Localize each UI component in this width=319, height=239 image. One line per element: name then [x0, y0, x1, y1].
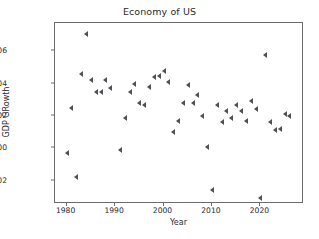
x-axis-label: Year — [54, 218, 303, 227]
scatter-point — [278, 126, 282, 132]
scatter-point — [176, 118, 180, 124]
y-tick-label: 0.00 — [0, 143, 7, 152]
scatter-point — [108, 85, 112, 91]
scatter-point — [254, 106, 258, 112]
scatter-point — [268, 119, 272, 125]
scatter-point — [263, 52, 267, 58]
y-tick-mark — [51, 82, 54, 83]
scatter-point — [89, 77, 93, 83]
scatter-point — [137, 100, 141, 106]
scatter-point — [210, 187, 214, 193]
scatter-point — [166, 79, 170, 85]
scatter-point — [123, 115, 127, 121]
scatter-point — [118, 147, 122, 153]
scatter-point — [215, 102, 219, 108]
scatter-point — [69, 105, 73, 111]
scatter-point — [103, 77, 107, 83]
scatter-point — [186, 82, 190, 88]
plot-frame — [54, 22, 303, 203]
scatter-point — [234, 102, 238, 108]
scatter-point — [132, 81, 136, 87]
scatter-plot-area — [55, 23, 302, 202]
scatter-point — [244, 118, 248, 124]
x-tick-label: 2000 — [143, 206, 183, 215]
scatter-point — [273, 127, 277, 133]
x-tick-label: 1990 — [94, 206, 134, 215]
scatter-point — [147, 84, 151, 90]
y-tick-label: 0.02 — [0, 110, 7, 119]
scatter-point — [249, 98, 253, 104]
scatter-point — [191, 100, 195, 106]
scatter-point — [287, 113, 291, 119]
scatter-point — [229, 115, 233, 121]
x-tick-label: 2020 — [239, 206, 279, 215]
scatter-point — [220, 119, 224, 125]
scatter-point — [84, 31, 88, 37]
scatter-point — [157, 73, 161, 79]
scatter-point — [152, 74, 156, 80]
scatter-point — [258, 195, 262, 201]
scatter-point — [205, 144, 209, 150]
x-tick-label: 2010 — [191, 206, 231, 215]
y-tick-label: -0.02 — [0, 175, 7, 184]
scatter-point — [162, 68, 166, 74]
scatter-point — [195, 92, 199, 98]
x-tick-label: 1980 — [46, 206, 86, 215]
scatter-point — [99, 89, 103, 95]
scatter-point — [94, 89, 98, 95]
scatter-point — [65, 150, 69, 156]
scatter-point — [181, 100, 185, 106]
scatter-point — [171, 129, 175, 135]
scatter-point — [239, 108, 243, 114]
scatter-point — [79, 71, 83, 77]
page-title: Economy of US — [0, 6, 319, 17]
y-tick-label: 0.04 — [0, 78, 7, 87]
scatter-point — [200, 113, 204, 119]
scatter-point — [74, 174, 78, 180]
scatter-point — [142, 102, 146, 108]
y-tick-mark — [51, 50, 54, 51]
figure-canvas: Economy of US GDP GRowth Year -0.020.000… — [0, 0, 319, 239]
scatter-point — [224, 108, 228, 114]
scatter-point — [128, 89, 132, 95]
y-tick-mark — [51, 147, 54, 148]
y-tick-mark — [51, 179, 54, 180]
y-tick-mark — [51, 114, 54, 115]
y-tick-label: 0.06 — [0, 46, 7, 55]
scatter-point — [283, 111, 287, 117]
